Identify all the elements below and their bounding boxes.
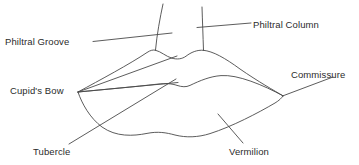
leader-line-philtral-groove [93,33,172,42]
philtral-column-right-line [202,7,204,50]
lower-lip-outer-border [78,92,283,137]
leader-line-vermilion [218,114,243,143]
leader-line-tubercle [69,79,176,144]
label-commissure: Commissure [291,69,345,80]
lip-anatomy-diagram: Philtral Groove Philtral Column Cupid's … [0,0,359,165]
label-vermilion: Vermilion [229,146,269,157]
upper-lip-vermilion-border-right [204,50,284,96]
mouth-line [78,76,283,96]
philtral-column-left-line [156,4,164,50]
leader-lines-group [69,23,333,144]
label-philtral-groove: Philtral Groove [5,36,69,47]
label-philtral-column: Philtral Column [253,19,319,30]
cupids-bow-curve [156,50,204,59]
leader-line-philtral-column [197,23,251,28]
label-tubercle: Tubercle [33,146,70,157]
label-cupids-bow: Cupid's Bow [10,85,64,96]
leader-line-cupids-bow-upper [78,56,177,92]
